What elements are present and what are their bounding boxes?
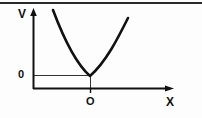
y-axis-origin-tick-label: 0 [18,69,24,80]
x-axis-label: X [166,96,174,108]
figure-container: V X 0 O [0,0,202,118]
x-axis-arrowhead-icon [165,85,174,91]
y-axis-label: V [18,8,26,20]
parabola-curve [53,10,128,76]
x-axis-origin-tick-label: O [86,96,95,107]
y-axis-arrowhead-icon [30,8,37,16]
